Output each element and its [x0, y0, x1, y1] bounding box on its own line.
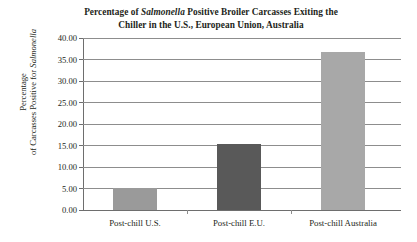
plot-area: 0.005.0010.0015.0020.0025.0030.0035.0040… — [83, 38, 395, 210]
x-axis-tick — [291, 210, 292, 214]
chart-title-line-2: Chiller in the U.S., European Union, Aus… — [118, 20, 303, 30]
y-axis-label: 30.00 — [58, 76, 77, 86]
chart-title-line-1: Percentage of Salmonella Positive Broile… — [84, 7, 338, 17]
y-axis-tick — [79, 145, 83, 146]
y-axis-label: 35.00 — [58, 55, 77, 65]
bar — [113, 188, 157, 210]
y-axis-tick — [79, 167, 83, 168]
x-axis-category-label: Post-chill U.S. — [109, 218, 161, 228]
y-axis-title-line-1: Percentage — [18, 73, 28, 111]
y-axis-tick — [79, 102, 83, 103]
y-axis-tick — [79, 38, 83, 39]
y-axis-title-italic-salmonella: Salmonella — [28, 29, 38, 68]
y-axis-label: 40.00 — [58, 33, 77, 43]
title-text-pre: Percentage of — [84, 7, 141, 17]
bar — [217, 144, 261, 210]
title-text-post: Positive Broiler Carcasses Exiting the — [185, 7, 338, 17]
title-italic-salmonella: Salmonella — [141, 7, 185, 17]
bar-chart-figure: Percentage of Salmonella Positive Broile… — [0, 0, 417, 242]
y-axis-label: 5.00 — [62, 184, 77, 194]
y-axis-label: 25.00 — [58, 98, 77, 108]
gridline — [83, 38, 401, 39]
y-axis-tick — [79, 210, 83, 211]
y-axis-tick — [79, 81, 83, 82]
x-axis-category-label: Post-chill E.U. — [213, 218, 265, 228]
x-axis-tick — [187, 210, 188, 214]
y-axis-label: 10.00 — [58, 162, 77, 172]
y-axis-label: 0.00 — [62, 205, 77, 215]
y-axis-title-text: of Carcasses Positive for — [28, 68, 38, 155]
y-axis-title: Percentage of Carcasses Positive for Sal… — [14, 4, 42, 180]
y-axis-tick — [79, 188, 83, 189]
y-axis-title-line-2: of Carcasses Positive for Salmonella — [28, 29, 38, 155]
y-axis-label: 20.00 — [58, 119, 77, 129]
x-axis-category-label: Post-chill Australia — [309, 218, 377, 228]
y-axis-tick — [79, 59, 83, 60]
y-axis-label: 15.00 — [58, 141, 77, 151]
y-axis-tick — [79, 124, 83, 125]
bar — [321, 52, 365, 210]
chart-title: Percentage of Salmonella Positive Broile… — [46, 6, 376, 31]
